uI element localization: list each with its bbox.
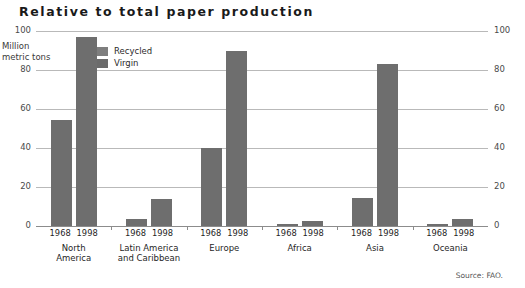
- category-europe: 19681998Europe: [187, 228, 262, 253]
- bar: [277, 224, 298, 226]
- bar: [151, 199, 172, 226]
- y-tick-right-40: 40: [494, 143, 505, 152]
- y-tick-right-20: 20: [494, 182, 505, 191]
- category-label: Europe: [209, 243, 239, 253]
- axis-tick: [337, 226, 338, 230]
- y-tick-left-0: 0: [26, 221, 31, 230]
- legend-item-recycled: Recycled: [97, 47, 152, 56]
- category-label: Latin America and Caribbean: [118, 243, 180, 263]
- y-tick-left-100: 100: [15, 26, 31, 35]
- axis-tick: [262, 226, 263, 230]
- x-tick-label: 1968: [348, 228, 375, 238]
- x-tick-label: 1968: [423, 228, 450, 238]
- y-tick-right-100: 100: [494, 26, 510, 35]
- category-label: Africa: [288, 243, 312, 253]
- y-tick-left-20: 20: [20, 182, 31, 191]
- category-label: Asia: [366, 243, 384, 253]
- x-axis-categories: 19681998North America19681998Latin Ameri…: [36, 228, 488, 272]
- bar: [427, 224, 448, 226]
- x-tick-label: 1998: [149, 228, 176, 238]
- category-latin-america-and-caribbean: 19681998Latin America and Caribbean: [111, 228, 186, 263]
- category-north-america: 19681998North America: [36, 228, 111, 263]
- legend-label-virgin: Virgin: [114, 59, 138, 68]
- source-note: Source: FAO.: [456, 271, 503, 280]
- category-years: 19681998: [273, 228, 327, 238]
- bar: [352, 198, 373, 226]
- bar: [51, 120, 72, 226]
- x-tick-label: 1998: [74, 228, 101, 238]
- bar: [226, 51, 247, 227]
- page-title: Relative to total paper production: [19, 4, 314, 19]
- category-years: 19681998: [47, 228, 101, 238]
- chart-legend: Recycled Virgin: [97, 47, 152, 68]
- bar: [302, 221, 323, 226]
- category-label: North America: [56, 243, 91, 263]
- y-tick-right-60: 60: [494, 104, 505, 113]
- legend-label-recycled: Recycled: [114, 47, 152, 56]
- legend-item-virgin: Virgin: [97, 59, 152, 68]
- bar: [377, 64, 398, 226]
- category-oceania: 19681998Oceania: [413, 228, 488, 253]
- x-tick-label: 1968: [47, 228, 74, 238]
- x-tick-label: 1998: [450, 228, 477, 238]
- category-years: 19681998: [122, 228, 176, 238]
- category-africa: 19681998Africa: [262, 228, 337, 253]
- chart-page: Relative to total paper production Milli…: [0, 0, 525, 288]
- category-asia: 19681998Asia: [337, 228, 412, 253]
- category-years: 19681998: [348, 228, 402, 238]
- y-tick-right-80: 80: [494, 65, 505, 74]
- y-tick-left-60: 60: [20, 104, 31, 113]
- axis-tick: [413, 226, 414, 230]
- legend-swatch-virgin: [97, 59, 108, 68]
- x-tick-label: 1968: [122, 228, 149, 238]
- bar: [452, 219, 473, 226]
- y-tick-right-0: 0: [494, 221, 499, 230]
- y-tick-left-80: 80: [20, 65, 31, 74]
- bar: [126, 219, 147, 226]
- bar: [76, 37, 97, 226]
- axis-tick: [111, 226, 112, 230]
- legend-swatch-recycled: [97, 47, 108, 56]
- category-years: 19681998: [197, 228, 251, 238]
- x-tick-label: 1998: [375, 228, 402, 238]
- category-label: Oceania: [433, 243, 468, 253]
- x-tick-label: 1998: [300, 228, 327, 238]
- x-tick-label: 1968: [197, 228, 224, 238]
- y-tick-left-40: 40: [20, 143, 31, 152]
- x-tick-label: 1968: [273, 228, 300, 238]
- category-years: 19681998: [423, 228, 477, 238]
- x-tick-label: 1998: [224, 228, 251, 238]
- axis-tick: [187, 226, 188, 230]
- bar: [201, 148, 222, 226]
